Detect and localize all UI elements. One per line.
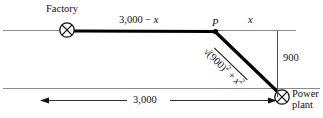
diagram-svg <box>0 0 323 118</box>
vertical-dimension-label: 900 <box>283 52 299 63</box>
left-segment-variable: x <box>154 14 159 25</box>
factory-label: Factory <box>46 3 78 14</box>
power-plant-label: Power plant <box>292 89 323 110</box>
left-segment-text: 3,000 − <box>119 14 154 25</box>
point-p-marker <box>213 29 218 34</box>
horizontal-dimension-label: 3,000 <box>131 94 159 105</box>
dimension-arrow-left <box>40 98 49 104</box>
left-segment-label: 3,000 − x <box>119 14 158 25</box>
cable-segment-land <box>74 31 215 32</box>
figure-canvas: Factory P 3,000 − x x √(900)2 + x2 900 3… <box>0 0 323 118</box>
point-p-label: P <box>212 17 218 28</box>
power-plant-symbol <box>275 90 289 104</box>
right-segment-label: x <box>248 14 253 25</box>
factory-symbol <box>60 23 74 37</box>
